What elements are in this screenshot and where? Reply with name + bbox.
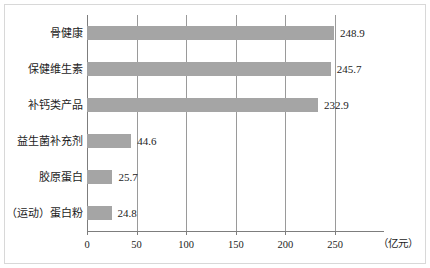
gridline [285, 15, 286, 231]
value-label: 44.6 [137, 134, 156, 148]
tick-mark [285, 231, 286, 235]
tick-mark [137, 231, 138, 235]
category-label: 补钙类产品 [0, 98, 83, 112]
value-label: 245.7 [337, 62, 362, 76]
bar [87, 134, 131, 148]
value-label: 25.7 [118, 170, 137, 184]
tick-mark [335, 231, 336, 235]
x-axis-unit-label: （亿元） [378, 237, 418, 251]
figure-border-bottom [4, 263, 425, 264]
figure-border-right [425, 4, 426, 264]
category-label: （运动）蛋白粉 [0, 206, 83, 220]
y-axis-line [87, 15, 88, 231]
bar [87, 206, 112, 220]
gridline [137, 15, 138, 231]
figure-border-top [4, 4, 425, 5]
x-tick-label: 200 [265, 238, 305, 252]
category-label: 胶原蛋白 [0, 170, 83, 184]
x-tick-label: 150 [216, 238, 256, 252]
bar [87, 62, 331, 76]
tick-mark [87, 231, 88, 235]
x-tick-label: 100 [166, 238, 206, 252]
value-label: 248.9 [340, 26, 365, 40]
gridline [186, 15, 187, 231]
gridline [335, 15, 336, 231]
bar [87, 170, 112, 184]
value-label: 232.9 [324, 98, 349, 112]
value-label: 24.8 [118, 206, 137, 220]
bar [87, 26, 334, 40]
gridline [236, 15, 237, 231]
category-label: 骨健康 [0, 26, 83, 40]
category-label: 保健维生素 [0, 62, 83, 76]
bar [87, 98, 318, 112]
x-tick-label: 50 [117, 238, 157, 252]
tick-mark [236, 231, 237, 235]
x-tick-label: 0 [67, 238, 107, 252]
bar-chart-figure: 050100150200250 骨健康保健维生素补钙类产品益生菌补充剂胶原蛋白（… [0, 0, 430, 268]
tick-mark [186, 231, 187, 235]
x-tick-label: 250 [315, 238, 355, 252]
category-label: 益生菌补充剂 [0, 134, 83, 148]
